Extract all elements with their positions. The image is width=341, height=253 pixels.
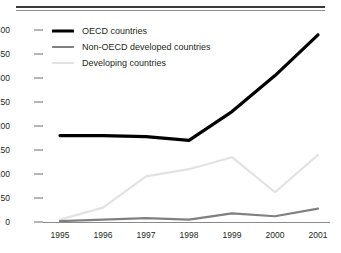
legend-swatch — [52, 29, 74, 32]
legend-swatch — [52, 62, 74, 64]
legend-item-label: OECD countries — [82, 26, 147, 36]
legend-swatch — [52, 46, 74, 48]
chart-container: 1995–2001 050100150200250300350400 19951… — [0, 0, 341, 253]
data-series-layer — [0, 0, 341, 253]
series-line — [60, 155, 318, 220]
series-line — [60, 209, 318, 221]
legend-item-label: Developing countries — [82, 58, 166, 68]
plot-area: 050100150200250300350400 199519961997199… — [0, 0, 341, 253]
legend-item-label: Non-OECD developed countries — [82, 42, 211, 52]
